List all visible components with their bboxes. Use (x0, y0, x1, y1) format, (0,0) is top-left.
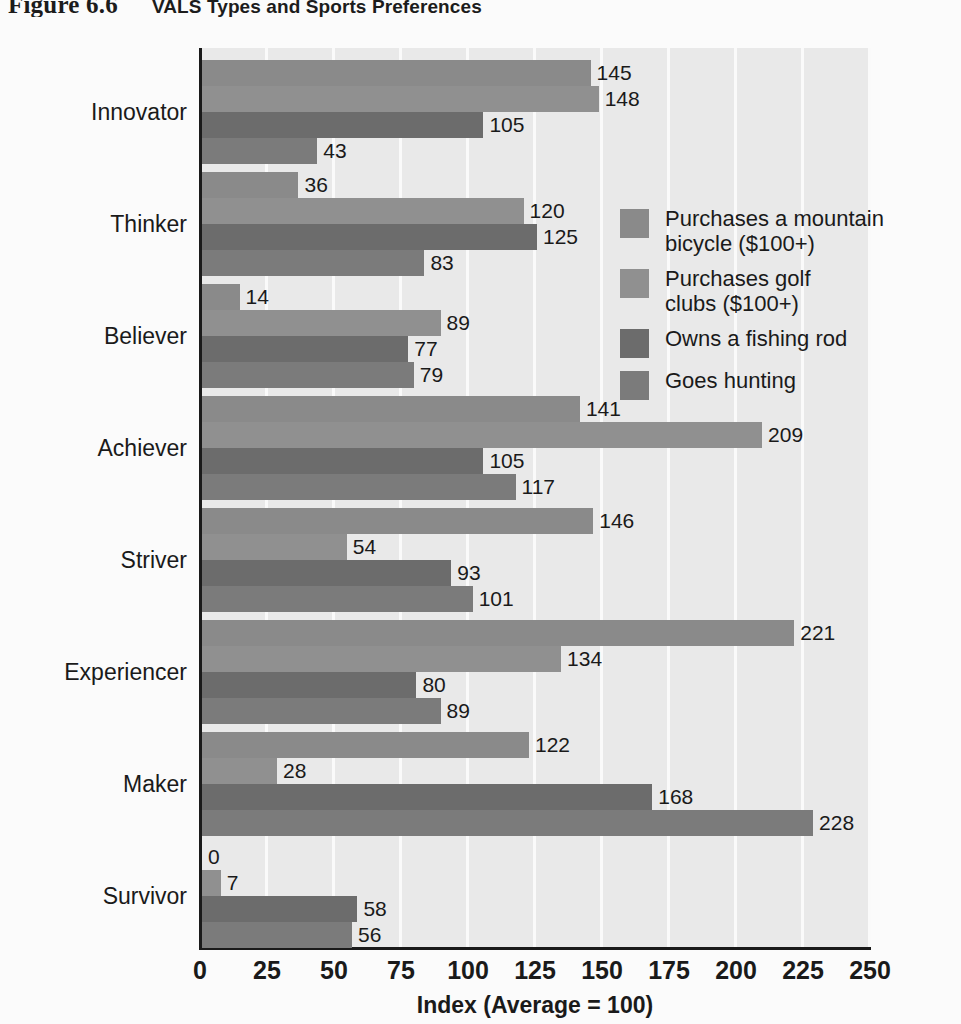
bar-value-label: 77 (408, 337, 437, 361)
bar[interactable] (202, 732, 529, 758)
bar-row: 145 (202, 60, 961, 86)
legend-label-line: Purchases golf (665, 266, 811, 291)
bar[interactable] (202, 138, 317, 164)
bar[interactable] (202, 784, 652, 810)
bar[interactable] (202, 922, 352, 948)
bar[interactable] (202, 396, 580, 422)
x-tick-label: 100 (447, 956, 489, 985)
bar-row: 146 (202, 508, 961, 534)
bar-value-label: 43 (317, 139, 346, 163)
bar-value-label: 89 (441, 311, 470, 335)
bar[interactable] (202, 284, 240, 310)
bar[interactable] (202, 810, 813, 836)
page-title: Figure 6.6VALS Types and Sports Preferen… (8, 0, 953, 17)
bar-value-label: 117 (516, 475, 555, 499)
bar-row: 7 (202, 870, 961, 896)
bar-value-label: 146 (593, 509, 634, 533)
bar-group: 12228168228 (202, 732, 961, 836)
bar[interactable] (202, 60, 591, 86)
bar[interactable] (202, 508, 593, 534)
bar[interactable] (202, 198, 524, 224)
legend-item[interactable]: Purchases golfclubs ($100+) (620, 266, 920, 316)
bar[interactable] (202, 698, 441, 724)
bar-row: 36 (202, 172, 961, 198)
x-tick-label: 50 (320, 956, 348, 985)
legend-item[interactable]: Goes hunting (620, 368, 920, 400)
bar[interactable] (202, 560, 451, 586)
bar[interactable] (202, 870, 221, 896)
bar[interactable] (202, 620, 794, 646)
legend-label-line: clubs ($100+) (665, 291, 811, 316)
bar-group: 075856 (202, 844, 961, 948)
bar[interactable] (202, 422, 762, 448)
bar[interactable] (202, 224, 537, 250)
figure-name: VALS Types and Sports Preferences (152, 0, 482, 17)
bar[interactable] (202, 534, 347, 560)
bar-value-label: 36 (298, 173, 327, 197)
bar-row: 93 (202, 560, 961, 586)
bar-value-label: 125 (537, 225, 578, 249)
bar-row: 221 (202, 620, 961, 646)
bar[interactable] (202, 86, 599, 112)
x-tick-label: 25 (253, 956, 281, 985)
bar-value-label: 80 (416, 673, 445, 697)
bar-value-label: 148 (599, 87, 640, 111)
bar-row: 105 (202, 448, 961, 474)
category-label-survivor: Survivor (103, 883, 187, 910)
category-label-believer: Believer (104, 323, 187, 350)
bar-row: 54 (202, 534, 961, 560)
bar[interactable] (202, 586, 473, 612)
category-label-striver: Striver (121, 547, 187, 574)
bar[interactable] (202, 474, 516, 500)
bar[interactable] (202, 172, 298, 198)
x-tick-label: 200 (715, 956, 757, 985)
bar[interactable] (202, 896, 357, 922)
bar-row: 101 (202, 586, 961, 612)
bar-row: 105 (202, 112, 961, 138)
legend-swatch-icon (620, 269, 649, 298)
bar-chart: InnovatorThinkerBelieverAchieverStriverE… (0, 24, 961, 1024)
bar-value-label: 93 (451, 561, 480, 585)
bar-row: 43 (202, 138, 961, 164)
legend-item[interactable]: Owns a fishing rod (620, 326, 920, 358)
category-axis-labels: InnovatorThinkerBelieverAchieverStriverE… (0, 48, 196, 948)
bar-value-label: 105 (483, 113, 524, 137)
bar-row: 0 (202, 844, 961, 870)
legend-label-line: Owns a fishing rod (665, 326, 847, 351)
bar-row: 134 (202, 646, 961, 672)
bar[interactable] (202, 758, 277, 784)
bar[interactable] (202, 250, 424, 276)
bar-row: 89 (202, 698, 961, 724)
bar[interactable] (202, 448, 483, 474)
bar[interactable] (202, 336, 408, 362)
x-tick-label: 125 (514, 956, 556, 985)
x-tick-label: 0 (193, 956, 207, 985)
category-label-achiever: Achiever (98, 435, 187, 462)
bar[interactable] (202, 310, 441, 336)
bar-value-label: 56 (352, 923, 381, 947)
category-label-thinker: Thinker (110, 211, 187, 238)
x-tick-label: 225 (782, 956, 824, 985)
legend-item[interactable]: Purchases a mountainbicycle ($100+) (620, 206, 920, 256)
bar-value-label: 79 (414, 363, 443, 387)
bar-value-label: 105 (483, 449, 524, 473)
bar-value-label: 0 (202, 845, 220, 869)
category-label-innovator: Innovator (91, 99, 187, 126)
legend-swatch-icon (620, 209, 649, 238)
bar-row: 28 (202, 758, 961, 784)
bar-group: 1465493101 (202, 508, 961, 612)
bar[interactable] (202, 362, 414, 388)
bar[interactable] (202, 112, 483, 138)
bar-value-label: 7 (221, 871, 239, 895)
x-tick-label: 175 (648, 956, 690, 985)
bar[interactable] (202, 672, 416, 698)
legend-label: Goes hunting (665, 368, 796, 393)
bar-value-label: 14 (240, 285, 269, 309)
bar-value-label: 101 (473, 587, 514, 611)
x-axis-title: Index (Average = 100) (200, 992, 870, 1019)
bar[interactable] (202, 646, 561, 672)
bar-value-label: 221 (794, 621, 835, 645)
category-label-experiencer: Experiencer (64, 659, 187, 686)
bar-row: 122 (202, 732, 961, 758)
legend-label-line: Purchases a mountain (665, 206, 884, 231)
